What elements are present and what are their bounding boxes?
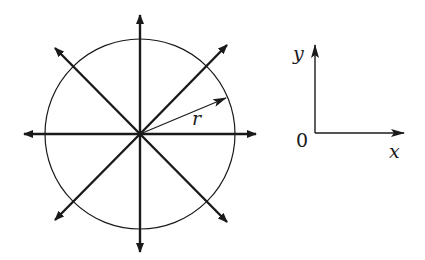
arrow-southwest: [55, 134, 140, 220]
arrow-northeast: [140, 45, 227, 134]
origin-label: 0: [296, 129, 308, 151]
polar-directions-diagram: r y 0 x: [0, 0, 425, 260]
arrow-northwest: [55, 48, 140, 134]
y-axis-label: y: [292, 42, 304, 64]
radius-label: r: [192, 107, 203, 129]
x-axis-label: x: [389, 140, 400, 162]
arrow-southeast: [140, 134, 227, 222]
coordinate-axes: y 0 x: [292, 42, 404, 162]
circle-figure: r: [24, 15, 256, 252]
radius-arrow: [140, 98, 226, 134]
